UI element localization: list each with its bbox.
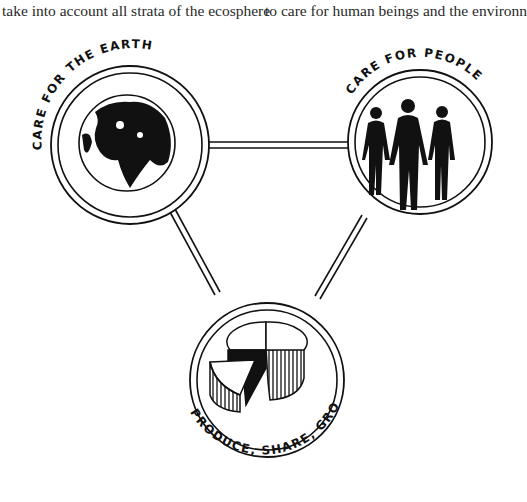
node-earth: CARE FOR THE EARTH bbox=[30, 37, 209, 224]
node-share: PRODUCE, SHARE, GROW bbox=[0, 0, 344, 458]
connector-earth-share bbox=[170, 209, 220, 295]
connector-earth-people bbox=[207, 142, 350, 148]
connector-people-share bbox=[315, 215, 367, 299]
node-people: CARE FOR PEOPLE bbox=[343, 46, 492, 214]
globe-icon bbox=[79, 95, 175, 191]
